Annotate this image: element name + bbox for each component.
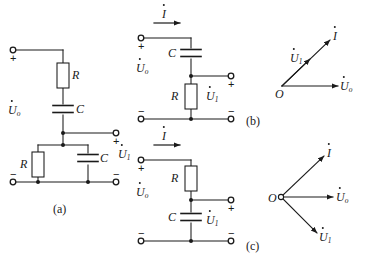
circuit-c-shunt-capacitor-plates <box>181 214 201 221</box>
circuit-a-series-capacitor-label: C <box>76 103 84 115</box>
circuit-a-input-plus: + <box>10 53 16 64</box>
phasor-dot-icon <box>121 144 123 146</box>
phasor-dot-icon <box>11 100 13 102</box>
circuit-a-shunt-capacitor-plates <box>78 155 98 162</box>
circuit-a-input-voltage-label: Uo <box>8 104 20 117</box>
subfigure-caption-b: (b) <box>246 115 260 127</box>
phasor-c-vector-u1 <box>281 197 317 233</box>
circuit-c-input-voltage-label: Uo <box>136 186 148 199</box>
phasor-dot-icon <box>328 143 330 145</box>
phasor-dot-icon <box>322 227 324 229</box>
circuit-b-input-minus: − <box>138 106 144 117</box>
phasor-b-label-i: I <box>333 30 337 42</box>
circuit-c-output-voltage-label: U1 <box>206 214 218 227</box>
phasor-dot-icon <box>209 86 211 88</box>
phasor-dot-icon <box>139 58 141 60</box>
phasor-b-label-u1: U1 <box>290 52 302 65</box>
phasor-dot-icon <box>293 48 295 50</box>
phasor-dot-icon <box>163 126 165 128</box>
circuit-b-output-voltage-label: U1 <box>206 90 218 103</box>
circuit-a-input-minus: − <box>10 169 16 180</box>
circuit-b-shunt-resistor-label: R <box>171 90 178 102</box>
circuit-c-series-resistor-body <box>185 166 197 191</box>
phasor-b-origin-label: O <box>275 88 284 100</box>
phasor-c-label-uo: Uo <box>336 191 348 204</box>
circuit-b-output-minus: − <box>228 106 234 117</box>
figure-vector-layer <box>0 0 375 264</box>
circuit-a-shunt-resistor-body <box>32 152 44 177</box>
subfigure-caption-c: (c) <box>246 240 259 252</box>
phasor-c-label-u1: U1 <box>319 231 331 244</box>
circuit-a-output-plus: + <box>113 136 119 147</box>
phasor-b-label-uo: Uo <box>340 80 352 93</box>
phasor-dot-icon <box>339 187 341 189</box>
circuit-b-current-label: I <box>162 8 166 20</box>
subfigure-caption-a: (a) <box>53 203 66 215</box>
phasor-c-vectors <box>281 156 333 233</box>
phasor-dot-icon <box>209 210 211 212</box>
phasor-dot-icon <box>334 26 336 28</box>
circuit-a-output-minus: − <box>113 169 119 180</box>
circuit-c-output-minus: − <box>228 228 234 239</box>
phasor-dot-icon <box>163 4 165 6</box>
phasor-c-origin-marker <box>278 194 283 199</box>
circuit-c-series-resistor-label: R <box>171 172 178 184</box>
circuit-a-series-capacitor-plates <box>53 106 73 113</box>
phasor-dot-icon <box>139 182 141 184</box>
circuit-c-input-minus: − <box>138 228 144 239</box>
circuit-b-series-capacitor-plates <box>181 50 201 57</box>
circuit-a-shunt-resistor-label: R <box>20 158 27 170</box>
phasor-dot-icon <box>343 76 345 78</box>
circuit-a-output-voltage-label: U1 <box>118 148 130 161</box>
phasor-c-label-i: I <box>327 147 331 159</box>
circuit-a-shunt-capacitor-label: C <box>100 152 108 164</box>
circuit-c-current-label: I <box>162 130 166 142</box>
circuit-a-series-resistor-body <box>57 63 69 88</box>
circuit-c-output-plus: + <box>228 203 234 214</box>
phasor-c-vector-i <box>281 156 324 197</box>
circuit-b-input-voltage-label: Uo <box>136 62 148 75</box>
figure-canvas: + − + − R C R C Uo U1 (a) I + − + − C R … <box>0 0 375 264</box>
circuit-c-input-plus: + <box>138 163 144 174</box>
circuit-b-input-plus: + <box>138 41 144 52</box>
circuit-b-series-capacitor-label: C <box>168 47 176 59</box>
circuit-c-shunt-capacitor-label: C <box>168 211 176 223</box>
circuit-a-series-resistor-label: R <box>72 69 79 81</box>
phasor-c-origin-label: O <box>268 192 277 204</box>
circuit-b-shunt-resistor-body <box>185 84 197 109</box>
circuit-b-output-plus: + <box>228 79 234 90</box>
